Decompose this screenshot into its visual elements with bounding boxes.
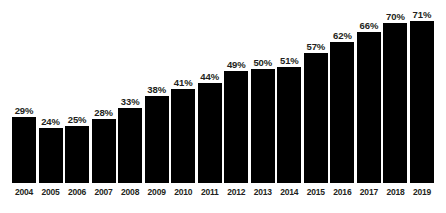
bar-group-2017[interactable]: 66% bbox=[357, 0, 381, 183]
bar-group-2019[interactable]: 71% bbox=[410, 0, 434, 183]
bar-rect[interactable] bbox=[357, 32, 381, 183]
bar-value-label: 70% bbox=[386, 11, 405, 22]
plot-area: 29% 24% 25% 28% 33% 38% bbox=[12, 0, 434, 183]
bar-value-label: 66% bbox=[360, 20, 379, 31]
bar-rect[interactable] bbox=[198, 83, 222, 183]
x-axis-label-2007: 2007 bbox=[92, 186, 116, 206]
bar-group-2005[interactable]: 24% bbox=[39, 0, 63, 183]
bar-group-2014[interactable]: 51% bbox=[277, 0, 301, 183]
bar-rect[interactable] bbox=[224, 71, 248, 183]
x-axis-label-2005: 2005 bbox=[39, 186, 63, 206]
x-axis-label-2015: 2015 bbox=[304, 186, 328, 206]
bar-rect[interactable] bbox=[383, 23, 407, 183]
bar-value-label: 71% bbox=[413, 9, 432, 20]
bar-group-2013[interactable]: 50% bbox=[251, 0, 275, 183]
x-axis-label-2016: 2016 bbox=[330, 186, 354, 206]
bar-chart: 29% 24% 25% 28% 33% 38% bbox=[0, 0, 446, 213]
x-axis-label-2011: 2011 bbox=[198, 186, 222, 206]
bar-value-label: 38% bbox=[147, 84, 166, 95]
bar-rect[interactable] bbox=[145, 96, 169, 183]
x-axis-label-2012: 2012 bbox=[224, 186, 248, 206]
x-axis-label-2008: 2008 bbox=[118, 186, 142, 206]
bar-value-label: 41% bbox=[174, 77, 193, 88]
x-axis-tick-labels: 2004 2005 2006 2007 2008 2009 2010 2011 … bbox=[12, 186, 434, 206]
bar-rect[interactable] bbox=[304, 53, 328, 183]
bar-group-2009[interactable]: 38% bbox=[145, 0, 169, 183]
bar-group-2011[interactable]: 44% bbox=[198, 0, 222, 183]
x-axis-label-2009: 2009 bbox=[145, 186, 169, 206]
bar-rect[interactable] bbox=[92, 119, 116, 183]
bar-group-2008[interactable]: 33% bbox=[118, 0, 142, 183]
bar-rect[interactable] bbox=[171, 89, 195, 183]
bar-rect[interactable] bbox=[65, 126, 89, 183]
bar-value-label: 57% bbox=[306, 41, 325, 52]
x-axis-label-2019: 2019 bbox=[410, 186, 434, 206]
bar-value-label: 49% bbox=[227, 59, 246, 70]
bar-group-2018[interactable]: 70% bbox=[383, 0, 407, 183]
bar-value-label: 50% bbox=[253, 57, 272, 68]
bar-value-label: 24% bbox=[41, 116, 60, 127]
bar-rect[interactable] bbox=[330, 42, 354, 183]
bar-group-2010[interactable]: 41% bbox=[171, 0, 195, 183]
bar-rect[interactable] bbox=[251, 69, 275, 183]
bar-value-label: 25% bbox=[68, 114, 87, 125]
bar-value-label: 62% bbox=[333, 30, 352, 41]
bar-rect[interactable] bbox=[410, 21, 434, 183]
x-axis-label-2006: 2006 bbox=[65, 186, 89, 206]
x-axis-label-2018: 2018 bbox=[383, 186, 407, 206]
bar-value-label: 44% bbox=[200, 71, 219, 82]
bar-value-label: 28% bbox=[94, 107, 113, 118]
bar-value-label: 33% bbox=[121, 96, 140, 107]
bar-group-2015[interactable]: 57% bbox=[304, 0, 328, 183]
bars-container: 29% 24% 25% 28% 33% 38% bbox=[12, 0, 434, 183]
x-axis-label-2017: 2017 bbox=[357, 186, 381, 206]
bar-group-2016[interactable]: 62% bbox=[330, 0, 354, 183]
bar-group-2004[interactable]: 29% bbox=[12, 0, 36, 183]
x-axis-label-2004: 2004 bbox=[12, 186, 36, 206]
bar-rect[interactable] bbox=[118, 108, 142, 183]
bar-rect[interactable] bbox=[12, 117, 36, 183]
bar-group-2012[interactable]: 49% bbox=[224, 0, 248, 183]
bar-group-2007[interactable]: 28% bbox=[92, 0, 116, 183]
bar-group-2006[interactable]: 25% bbox=[65, 0, 89, 183]
bar-rect[interactable] bbox=[277, 67, 301, 183]
bar-rect[interactable] bbox=[39, 128, 63, 183]
x-axis-label-2014: 2014 bbox=[277, 186, 301, 206]
bar-value-label: 29% bbox=[15, 105, 34, 116]
bar-value-label: 51% bbox=[280, 55, 299, 66]
x-axis-label-2013: 2013 bbox=[251, 186, 275, 206]
x-axis-label-2010: 2010 bbox=[171, 186, 195, 206]
